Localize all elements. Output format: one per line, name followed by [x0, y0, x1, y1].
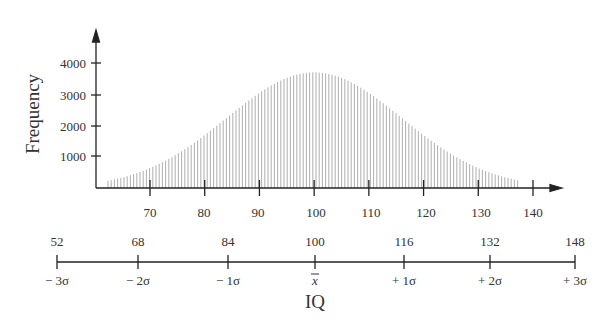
sigma-label: + 1σ — [392, 273, 416, 288]
x-tick-labels: 70 80 90 100 110 120 130 140 — [144, 205, 543, 220]
x-tick-label: 130 — [471, 205, 491, 220]
x-tick-label: 110 — [361, 205, 380, 220]
sigma-value: 84 — [222, 234, 236, 249]
y-tick-label: 1000 — [60, 149, 86, 164]
y-tick-label: 2000 — [60, 119, 86, 134]
y-tick-label: 3000 — [60, 88, 86, 103]
y-tick-labels: 4000 3000 2000 1000 — [60, 56, 86, 164]
sigma-value: 148 — [565, 234, 585, 249]
frequency-bars — [108, 72, 518, 188]
x-axis-arrow-icon — [550, 185, 562, 192]
sigma-value: 132 — [480, 234, 500, 249]
y-axis-arrow-icon — [93, 30, 100, 42]
x-axis-label: IQ — [305, 291, 325, 312]
sigma-value: 100 — [305, 234, 325, 249]
y-axis-label: Frequency — [22, 73, 43, 154]
sigma-label: − 3σ — [45, 273, 69, 288]
sigma-label: − 1σ — [216, 273, 240, 288]
x-tick-label: 70 — [144, 205, 157, 220]
sigma-label: + 3σ — [563, 273, 587, 288]
sigma-scale: 52 68 84 100 116 132 148 − 3σ − 2σ − 1σ … — [45, 234, 587, 312]
y-axis — [91, 30, 101, 188]
sigma-label: + 2σ — [478, 273, 502, 288]
x-tick-label: 90 — [252, 205, 265, 220]
iq-distribution-chart: 4000 3000 2000 1000 Frequency 70 80 90 1… — [0, 0, 601, 328]
sigma-value: 116 — [394, 234, 414, 249]
sigma-value: 68 — [132, 234, 145, 249]
sigma-label: − 2σ — [126, 273, 150, 288]
x-tick-label: 100 — [306, 205, 326, 220]
x-tick-label: 120 — [416, 205, 436, 220]
x-tick-label: 140 — [523, 205, 543, 220]
x-tick-label: 80 — [198, 205, 211, 220]
mean-label: x — [311, 273, 318, 288]
sigma-value: 52 — [51, 234, 64, 249]
y-tick-label: 4000 — [60, 56, 86, 71]
